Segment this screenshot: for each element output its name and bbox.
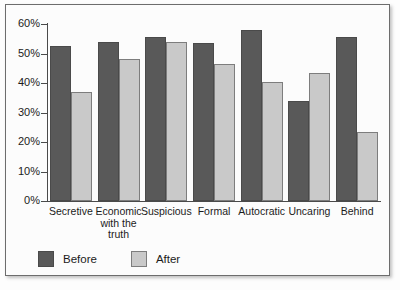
y-axis-tick-label: 20% (4, 136, 40, 147)
chart-figure: 0%10%20%30%40%50%60% SecretiveEconomic w… (0, 0, 400, 290)
bar-after-6 (357, 132, 378, 201)
x-axis-line (47, 201, 381, 202)
legend-label: After (156, 253, 180, 265)
legend-item-after: After (131, 251, 180, 267)
y-axis-tick-label: 50% (4, 48, 40, 59)
y-axis-labels: 0%10%20%30%40%50%60% (0, 0, 40, 290)
y-axis-tick-label: 60% (4, 18, 40, 29)
bar-before-2 (145, 37, 166, 201)
y-axis-tick-label: 30% (4, 107, 40, 118)
legend-item-before: Before (38, 251, 97, 267)
bar-before-1 (98, 42, 119, 201)
chart-legend: BeforeAfter (38, 250, 214, 268)
y-axis-tick-label: 0% (4, 195, 40, 206)
bar-before-4 (241, 30, 262, 201)
bar-after-3 (214, 64, 235, 201)
bar-after-0 (71, 92, 92, 201)
bar-after-2 (166, 42, 187, 201)
bar-before-6 (336, 37, 357, 201)
bar-before-5 (288, 101, 309, 201)
y-axis-tick-label: 40% (4, 77, 40, 88)
x-axis-label-6: Behind (327, 206, 387, 218)
bar-after-5 (309, 73, 330, 201)
plot-area (47, 24, 381, 201)
bar-after-4 (262, 82, 283, 201)
legend-swatch-icon (131, 251, 147, 267)
legend-swatch-icon (38, 251, 54, 267)
bar-before-3 (193, 43, 214, 201)
bar-after-1 (119, 59, 140, 201)
legend-label: Before (63, 253, 97, 265)
y-axis-tick-label: 10% (4, 166, 40, 177)
bar-before-0 (50, 46, 71, 201)
